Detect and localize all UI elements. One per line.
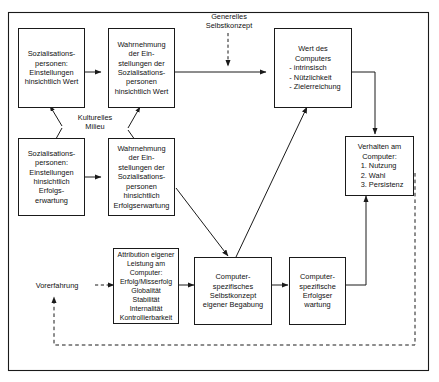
box-wahrnehmung-wert-text: Wahrnehmung der Ein- stellungen der Sozi… [113, 40, 171, 96]
box-verhalten-am-computer[interactable]: Verhalten am Computer: 1. Nutzung 2. Wah… [345, 136, 414, 196]
arrow-milieu-right-up [128, 107, 140, 128]
box-wahrnehmung-erfolg[interactable]: Wahrnehmung der Ein- stellungen der Sozi… [108, 138, 175, 216]
box-selbstkonzept-begabung[interactable]: Computer- spezifisches Selbstkonzept eig… [194, 257, 272, 325]
box-wahrnehmung-erfolg-text: Wahrnehmung der Ein- stellungen der Sozi… [112, 144, 172, 210]
box-sozialisation-erfolg[interactable]: Sozialisations- personen: Einstellungen … [18, 138, 85, 216]
box-selbstkonzept-begabung-text: Computer- spezifisches Selbstkonzept eig… [201, 272, 265, 310]
box-wert-des-computers-title: Wert des Computers [283, 44, 342, 63]
arrow-erfolgserwartung-to-verhalten [346, 196, 366, 285]
box-attribution-text: Attribution eigener Leistung am Computer… [116, 250, 177, 322]
box-verhalten-am-computer-list: 1. Nutzung 2. Wahl 3. Persistenz [354, 161, 406, 189]
label-generelles-selbstkonzept: Generelles Selbstkonzept [191, 12, 267, 31]
box-attribution[interactable]: Attribution eigener Leistung am Computer… [113, 248, 179, 324]
box-wert-des-computers-list: - intrinsisch - Nützlichkeit - Zielerrei… [283, 63, 342, 91]
arrow-wahrnehmung-erfolg-to-selbstkonzept [176, 188, 228, 256]
box-erfolgserwartung-text: Computer- spezifische Erfolgser wartung [297, 272, 338, 310]
box-wahrnehmung-wert[interactable]: Wahrnehmung der Ein- stellungen der Sozi… [108, 28, 175, 108]
box-wert-des-computers[interactable]: Wert des Computers - intrinsisch - Nützl… [274, 28, 352, 108]
box-sozialisation-wert-text: Sozialisations- personen: Einstellungen … [23, 49, 81, 87]
arrow-selbstkonzept-to-wert [236, 107, 307, 257]
box-verhalten-am-computer-title: Verhalten am Computer: [354, 142, 406, 161]
label-vorerfahrung: Vorerfahrung [24, 281, 90, 290]
label-kulturelles-milieu: Kulturelles Milieu [69, 113, 121, 132]
diagram-canvas: Sozialisations- personen: Einstellungen … [0, 0, 439, 382]
arrow-milieu-left-up [50, 106, 62, 126]
arrow-wert-to-verhalten [352, 72, 375, 134]
box-erfolgserwartung[interactable]: Computer- spezifische Erfolgser wartung [289, 257, 346, 325]
box-sozialisation-erfolg-text: Sozialisations- personen: Einstellungen … [26, 149, 78, 205]
box-sozialisation-wert[interactable]: Sozialisations- personen: Einstellungen … [18, 28, 85, 108]
